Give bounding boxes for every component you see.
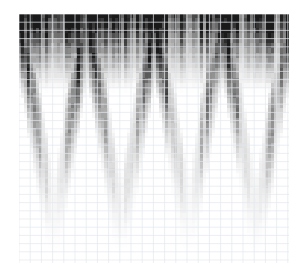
heatmap-image: [19, 14, 289, 263]
matplotlib-figure: [0, 0, 308, 277]
heatmap-plot-area: [19, 14, 289, 263]
figure-root: [0, 0, 308, 277]
